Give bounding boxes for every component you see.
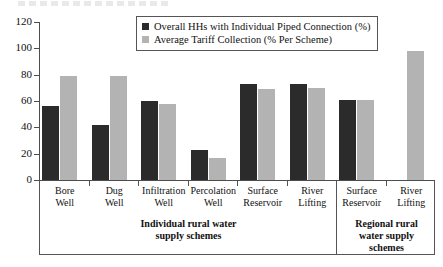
group-band-label-line: water supply bbox=[337, 230, 436, 242]
bar-group bbox=[89, 22, 139, 180]
legend-label-dark: Overall HHs with Individual Piped Connec… bbox=[154, 21, 370, 33]
category-label: DugWell bbox=[90, 185, 140, 208]
category-label-line: Reservoir bbox=[337, 197, 387, 209]
bar bbox=[141, 101, 158, 180]
dark-square-icon bbox=[142, 23, 149, 30]
category-label-line: Well bbox=[139, 197, 189, 209]
group-band-label: Regional ruralwater supplyschemes bbox=[337, 218, 436, 254]
legend-entry-dark: Overall HHs with Individual Piped Connec… bbox=[142, 20, 370, 33]
bar bbox=[60, 76, 77, 180]
category-label-line: Surface bbox=[238, 185, 288, 197]
group-label-row: Individual rural watersupply schemesRegi… bbox=[40, 215, 436, 254]
bar-group bbox=[386, 22, 436, 180]
category-label-line: Infiltration bbox=[139, 185, 189, 197]
category-label: RiverLifting bbox=[387, 185, 437, 208]
legend-entry-light: Average Tariff Collection (% Per Scheme) bbox=[142, 33, 370, 46]
category-label-line: Surface bbox=[337, 185, 387, 197]
category-label-line: Well bbox=[189, 197, 239, 209]
category-label-line: Dug bbox=[90, 185, 140, 197]
group-band-label-line: Regional rural bbox=[337, 218, 436, 230]
bar bbox=[290, 84, 307, 180]
y-axis-tick-label: 100 bbox=[2, 42, 32, 53]
category-label-line: Well bbox=[40, 197, 90, 209]
category-label: RiverLifting bbox=[288, 185, 338, 208]
category-label-line: Bore bbox=[40, 185, 90, 197]
bar bbox=[92, 125, 109, 180]
bar-chart-figure: 120100806040200 Overall HHs with Individ… bbox=[0, 0, 443, 267]
bar bbox=[357, 100, 374, 180]
y-axis-tick-label: 60 bbox=[2, 95, 32, 106]
category-label: InfiltrationWell bbox=[139, 185, 189, 208]
category-label-table: BoreWellDugWellInfiltrationWellPercolati… bbox=[39, 181, 435, 255]
legend-label-light: Average Tariff Collection (% Per Scheme) bbox=[154, 34, 332, 46]
category-label-line: Lifting bbox=[288, 197, 338, 209]
category-label: BoreWell bbox=[40, 185, 90, 208]
plot-area: 120100806040200 Overall HHs with Individ… bbox=[0, 0, 443, 267]
bar bbox=[110, 76, 127, 180]
category-label: SurfaceReservoir bbox=[238, 185, 288, 208]
category-label-row: BoreWellDugWellInfiltrationWellPercolati… bbox=[40, 181, 436, 215]
bar bbox=[258, 89, 275, 180]
group-band-label-line: Individual rural water bbox=[40, 218, 337, 230]
y-axis-tick-label: 80 bbox=[2, 69, 32, 80]
bar bbox=[159, 104, 176, 180]
bar bbox=[339, 100, 356, 180]
category-label-line: Percolation bbox=[189, 185, 239, 197]
group-band-label: Individual rural watersupply schemes bbox=[40, 218, 337, 242]
category-label: SurfaceReservoir bbox=[337, 185, 387, 208]
category-label-line: Reservoir bbox=[238, 197, 288, 209]
chart-legend: Overall HHs with Individual Piped Connec… bbox=[136, 16, 378, 51]
category-label-line: River bbox=[288, 185, 338, 197]
group-divider bbox=[336, 181, 337, 255]
bar bbox=[308, 88, 325, 180]
y-axis-tick-label: 20 bbox=[2, 148, 32, 159]
y-axis-tick-label: 120 bbox=[2, 16, 32, 27]
category-label-line: Well bbox=[90, 197, 140, 209]
category-label-line: Lifting bbox=[387, 197, 437, 209]
bar-group bbox=[39, 22, 89, 180]
group-band-label-line: supply schemes bbox=[40, 230, 337, 242]
category-label: PercolationWell bbox=[189, 185, 239, 208]
y-axis-tick-label: 40 bbox=[2, 121, 32, 132]
bar bbox=[209, 158, 226, 180]
group-band-label-line: schemes bbox=[337, 242, 436, 254]
bar bbox=[407, 51, 424, 180]
bar bbox=[191, 150, 208, 180]
light-square-icon bbox=[142, 36, 149, 43]
category-label-line: River bbox=[387, 185, 437, 197]
y-axis-tick-label: 0 bbox=[2, 174, 32, 185]
bar bbox=[42, 106, 59, 180]
bar bbox=[240, 84, 257, 180]
